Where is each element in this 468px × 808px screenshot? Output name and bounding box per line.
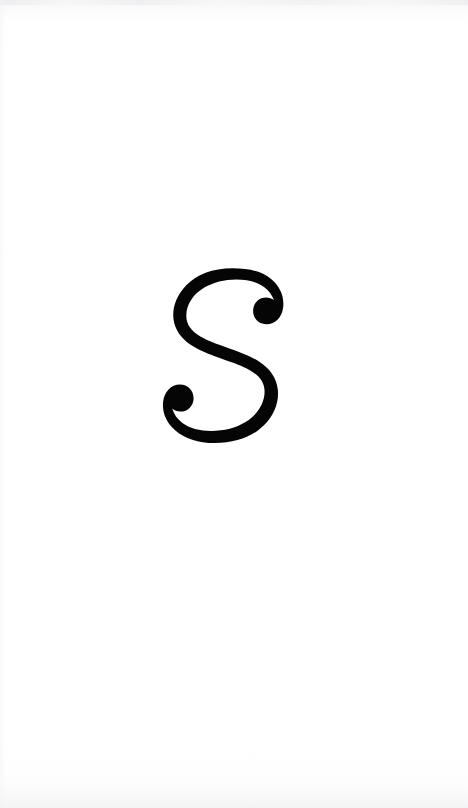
letter-s-glyph	[160, 262, 294, 454]
letter-s-outline	[163, 268, 283, 443]
page-canvas: S	[0, 0, 468, 808]
glyph-stage	[0, 0, 468, 808]
